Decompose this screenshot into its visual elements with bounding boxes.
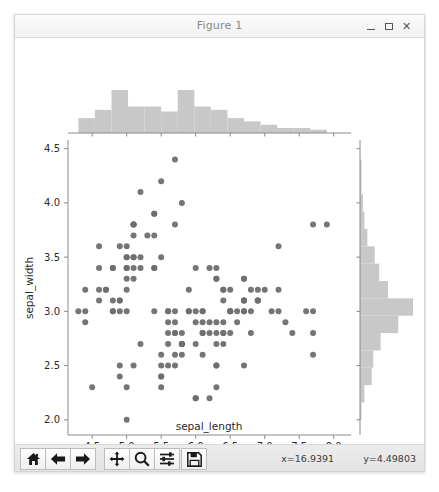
scatter-point	[220, 319, 226, 325]
scatter-point	[96, 298, 102, 304]
forward-arrow-icon[interactable]	[70, 448, 96, 470]
scatter-point	[241, 308, 247, 314]
scatter-point	[248, 308, 254, 314]
scatter-point	[213, 265, 219, 271]
scatter-point	[137, 254, 143, 260]
hist-bar-top	[227, 118, 244, 133]
toolbar-save-group	[181, 448, 206, 470]
scatter-point	[165, 319, 171, 325]
scatter-point	[131, 222, 137, 228]
hist-bar-right	[360, 281, 388, 298]
scatter-point	[200, 308, 206, 314]
scatter-point	[82, 287, 88, 293]
scatter-point	[165, 341, 171, 347]
scatter-point	[179, 341, 185, 347]
scatter-point	[131, 363, 137, 369]
hist-bar-top	[78, 118, 95, 133]
scatter-point	[172, 308, 178, 314]
scatter-point	[213, 341, 219, 347]
hist-bar-top	[194, 107, 211, 133]
scatter-point	[151, 211, 157, 217]
scatter-point	[200, 330, 206, 336]
hist-bar-right	[360, 333, 381, 350]
scatter-point	[172, 352, 178, 358]
scatter-point	[172, 319, 178, 325]
cursor-coordinates: x=16.9391 y=4.49803	[281, 453, 416, 464]
scatter-point	[110, 265, 116, 271]
scatter-point	[124, 276, 130, 282]
scatter-point	[241, 276, 247, 282]
scatter-point	[227, 287, 233, 293]
scatter-point	[158, 373, 164, 379]
hist-bar-top	[95, 110, 112, 133]
hist-bar-top	[178, 90, 195, 133]
hist-bar-right	[360, 368, 372, 385]
scatter-point	[213, 363, 219, 369]
scatter-point	[255, 298, 261, 304]
minimize-icon[interactable]	[364, 20, 377, 33]
scatter-point	[165, 308, 171, 314]
scatter-point	[158, 178, 164, 184]
scatter-point	[207, 330, 213, 336]
top-marginal-histogram	[78, 90, 327, 133]
scatter-point	[282, 319, 288, 325]
scatter-point	[241, 363, 247, 369]
scatter-point	[124, 287, 130, 293]
y-tick-label: 3.5	[44, 252, 60, 263]
hist-bar-right	[360, 350, 373, 367]
scatter-point	[124, 265, 130, 271]
close-icon[interactable]: ✕	[400, 20, 413, 33]
right-marginal-histogram	[360, 160, 413, 420]
coord-y-value: y=4.49803	[363, 453, 416, 464]
scatter-point	[96, 287, 102, 293]
scatter-point	[75, 308, 81, 314]
hist-bar-right	[360, 246, 375, 263]
scatter-point	[96, 243, 102, 249]
scatter-point	[172, 330, 178, 336]
scatter-point	[117, 308, 123, 314]
scatter-point	[103, 287, 109, 293]
hist-bar-top	[294, 128, 311, 133]
jointplot-figure: 4.55.05.56.06.57.07.58.0 2.02.53.03.54.0…	[15, 38, 424, 444]
scatter-point	[124, 417, 130, 423]
x-axis-label: sepal_length	[176, 420, 243, 433]
scatter-point	[220, 298, 226, 304]
save-floppy-icon[interactable]	[181, 448, 207, 470]
scatter-point	[179, 352, 185, 358]
scatter-point	[193, 308, 199, 314]
scatter-point	[220, 330, 226, 336]
y-axis-ticks: 2.02.53.03.54.04.5	[44, 143, 68, 425]
hist-bar-top	[161, 112, 178, 134]
scatter-point	[179, 200, 185, 206]
right-hist-ticks	[357, 149, 361, 420]
scatter-point	[248, 330, 254, 336]
scatter-point	[110, 298, 116, 304]
back-arrow-icon[interactable]	[45, 448, 71, 470]
scatter-point	[96, 265, 102, 271]
figure-canvas[interactable]: 4.55.05.56.06.57.07.58.0 2.02.53.03.54.0…	[15, 38, 424, 444]
hist-bar-top	[211, 110, 228, 133]
scatter-point	[193, 341, 199, 347]
zoom-magnifier-icon[interactable]	[129, 448, 155, 470]
home-icon[interactable]	[20, 448, 46, 470]
scatter-point	[165, 363, 171, 369]
maximize-icon[interactable]	[382, 20, 395, 33]
scatter-point	[289, 330, 295, 336]
scatter-point	[165, 330, 171, 336]
scatter-point	[276, 287, 282, 293]
pan-move-icon[interactable]	[104, 448, 130, 470]
hist-bar-top	[111, 90, 128, 133]
hist-bar-right	[360, 298, 413, 315]
scatter-point	[310, 330, 316, 336]
scatter-point	[200, 352, 206, 358]
configure-sliders-icon[interactable]	[154, 448, 180, 470]
scatter-point	[186, 308, 192, 314]
hist-bar-top	[145, 107, 162, 133]
scatter-point	[262, 287, 268, 293]
scatter-point	[276, 308, 282, 314]
y-tick-label: 4.5	[44, 143, 60, 154]
scatter-point	[82, 308, 88, 314]
top-hist-ticks	[92, 133, 334, 137]
scatter-point	[220, 341, 226, 347]
scatter-point	[131, 265, 137, 271]
